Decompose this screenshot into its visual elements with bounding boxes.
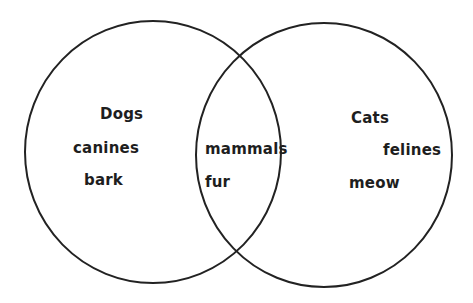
left-set-title: Dogs: [100, 107, 143, 122]
left-set-item: bark: [84, 173, 123, 188]
left-set-item: canines: [73, 141, 139, 156]
right-set-title: Cats: [351, 111, 389, 126]
intersection-item: fur: [205, 175, 230, 190]
right-set-item: meow: [349, 176, 400, 191]
right-set-item: felines: [383, 143, 441, 158]
intersection-item: mammals: [205, 142, 288, 157]
